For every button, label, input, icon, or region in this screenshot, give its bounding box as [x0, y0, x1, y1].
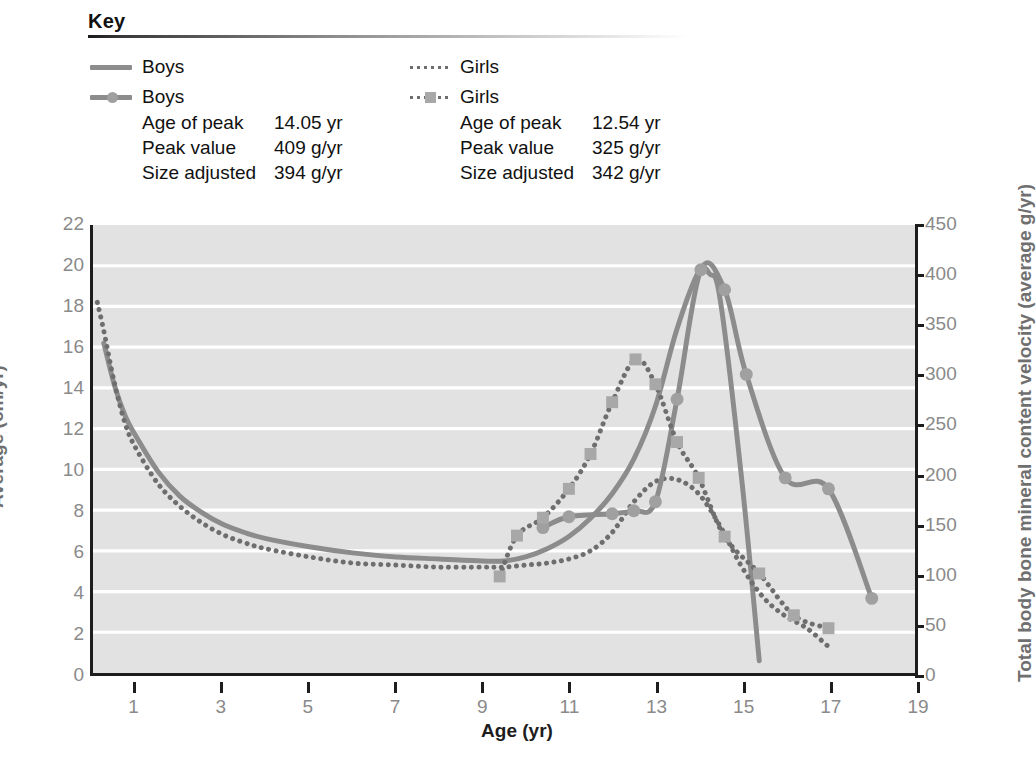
- data-point-marker: [671, 393, 684, 406]
- data-point-marker: [788, 609, 800, 621]
- legend-label-girls-bmc: Girls: [460, 86, 499, 108]
- y-right-tick-label: 450: [925, 213, 973, 235]
- y-right-tick-mark: [915, 525, 924, 528]
- y-left-tick-label: 22: [44, 213, 84, 235]
- figure-caption: [0, 762, 1034, 779]
- x-tick-mark: [743, 682, 746, 693]
- stat-value: 325 g/yr: [592, 135, 661, 160]
- data-point-marker: [865, 592, 878, 605]
- legend-entry-girls-bmc[interactable]: Girls: [406, 82, 746, 112]
- y-right-tick-label: 100: [925, 564, 973, 586]
- stat-value: 12.54 yr: [592, 110, 661, 135]
- x-axis: 135791113151719: [0, 682, 1034, 716]
- y-left-tick-label: 16: [44, 336, 84, 358]
- series-line-0: [104, 267, 759, 661]
- y-right-tick-label: 300: [925, 363, 973, 385]
- y-right-tick-mark: [915, 374, 924, 377]
- data-point-marker: [511, 530, 523, 542]
- x-axis-title: Age (yr): [0, 720, 1034, 742]
- x-tick-mark: [133, 682, 136, 693]
- data-point-marker: [719, 531, 731, 543]
- y-left-tick-label: 6: [44, 541, 84, 563]
- stat-name: Age of peak: [460, 110, 592, 135]
- stat-row: Peak value 409 g/yr: [142, 135, 418, 160]
- y-right-tick-label: 350: [925, 313, 973, 335]
- y-left-tick-label: 12: [44, 418, 84, 440]
- x-tick-label: 17: [811, 696, 851, 718]
- data-point-marker: [753, 567, 765, 579]
- stat-name: Age of peak: [142, 110, 274, 135]
- stat-name: Peak value: [460, 135, 592, 160]
- legend-column-boys: Boys Boys Age of peak 14.05 yr Peak valu…: [88, 52, 418, 185]
- data-point-marker: [649, 378, 661, 390]
- data-point-marker: [740, 368, 753, 381]
- x-tick-mark: [568, 682, 571, 693]
- y-axis-left: 0246810121416182022: [38, 208, 84, 694]
- x-tick-label: 7: [375, 696, 415, 718]
- data-point-marker: [693, 472, 705, 484]
- legend-label-boys-height: Boys: [142, 56, 184, 78]
- data-point-marker: [694, 263, 707, 276]
- y-left-tick-label: 20: [44, 254, 84, 276]
- data-point-marker: [627, 504, 640, 517]
- data-point-marker: [537, 512, 549, 524]
- series-line-3: [500, 359, 829, 628]
- stats-table-boys: Age of peak 14.05 yr Peak value 409 g/yr…: [142, 110, 418, 185]
- y-left-tick-label: 14: [44, 377, 84, 399]
- legend-entry-girls-height[interactable]: Girls: [406, 52, 746, 82]
- y-left-tick-label: 18: [44, 295, 84, 317]
- stat-value: 394 g/yr: [274, 160, 343, 185]
- data-point-marker: [671, 436, 683, 448]
- y-left-tick-label: 4: [44, 582, 84, 604]
- dotted-line-square-marker-swatch-icon: [406, 88, 452, 106]
- legend-entry-boys-height[interactable]: Boys: [88, 52, 418, 82]
- x-tick-label: 11: [549, 696, 589, 718]
- stat-row: Age of peak 14.05 yr: [142, 110, 418, 135]
- x-tick-mark: [220, 682, 223, 693]
- data-point-marker: [585, 448, 597, 460]
- x-tick-label: 15: [724, 696, 764, 718]
- x-tick-label: 1: [114, 696, 154, 718]
- data-point-marker: [718, 283, 731, 296]
- x-tick-label: 5: [288, 696, 328, 718]
- x-tick-mark: [917, 682, 920, 693]
- y-right-tick-mark: [915, 274, 924, 277]
- y-right-tick-label: 50: [925, 614, 973, 636]
- stat-row: Size adjusted 342 g/yr: [460, 160, 746, 185]
- y-right-tick-mark: [915, 224, 924, 227]
- y-left-tick-label: 10: [44, 459, 84, 481]
- y-axis-right: 050100150200250300350400450: [925, 208, 977, 694]
- plot-svg: [93, 225, 915, 673]
- chart: 0246810121416182022 05010015020025030035…: [0, 208, 1034, 748]
- key-underline-rule: [88, 35, 688, 38]
- series-line-1: [97, 302, 832, 648]
- data-point-marker: [563, 483, 575, 495]
- legend-column-girls: Girls Girls Age of peak 12.54 yr Peak va…: [406, 52, 746, 185]
- stat-name: Size adjusted: [142, 160, 274, 185]
- stat-value: 342 g/yr: [592, 160, 661, 185]
- legend-entry-boys-bmc[interactable]: Boys: [88, 82, 418, 112]
- y-right-tick-mark: [915, 625, 924, 628]
- data-point-marker: [823, 622, 835, 634]
- x-tick-mark: [830, 682, 833, 693]
- y-right-tick-mark: [915, 675, 924, 678]
- y-right-tick-mark: [915, 324, 924, 327]
- x-tick-label: 3: [201, 696, 241, 718]
- solid-line-swatch-icon: [88, 58, 134, 76]
- series-line-2: [543, 263, 872, 599]
- plot-area: [90, 225, 918, 676]
- y-right-tick-mark: [915, 575, 924, 578]
- y-right-tick-label: 400: [925, 263, 973, 285]
- legend-label-boys-bmc: Boys: [142, 86, 184, 108]
- solid-line-circle-marker-swatch-icon: [88, 88, 134, 106]
- stat-value: 14.05 yr: [274, 110, 343, 135]
- data-point-marker: [779, 471, 792, 484]
- x-tick-label: 9: [462, 696, 502, 718]
- y-right-tick-label: 150: [925, 514, 973, 536]
- x-tick-label: 13: [637, 696, 677, 718]
- y-axis-right-title: Total body bone mineral content velocity…: [1014, 184, 1036, 682]
- y-left-tick-label: 2: [44, 623, 84, 645]
- y-right-tick-mark: [915, 475, 924, 478]
- y-right-tick-mark: [915, 424, 924, 427]
- x-tick-label: 19: [898, 696, 938, 718]
